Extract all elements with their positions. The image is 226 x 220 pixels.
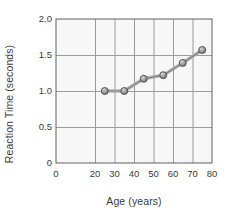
- x-tick-label: 80: [197, 169, 226, 179]
- y-tick-label: 0: [16, 158, 52, 168]
- y-tick-label: 0.5: [16, 122, 52, 132]
- y-axis-tick-labels: 00.51.01.52.0: [16, 0, 52, 220]
- x-axis-tick-labels: 020304050607080: [0, 169, 226, 183]
- y-tick-label: 2.0: [16, 14, 52, 24]
- y-tick-label: 1.5: [16, 50, 52, 60]
- chart-figure: 00.51.01.52.0 020304050607080 Reaction T…: [0, 0, 226, 220]
- x-tick-label: 0: [41, 169, 71, 179]
- y-axis-title: Reaction Time (seconds): [0, 19, 18, 189]
- x-axis-title: Age (years): [56, 195, 212, 207]
- y-tick-label: 1.0: [16, 86, 52, 96]
